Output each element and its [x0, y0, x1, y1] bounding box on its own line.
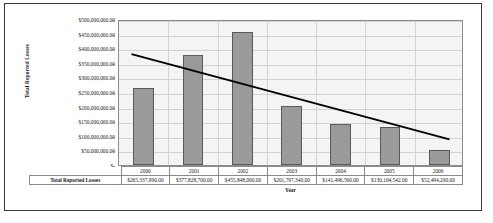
trendline	[119, 21, 462, 166]
table-value-cell: $455,848,000.00	[219, 176, 268, 185]
table-value-cell: $201,797,340.00	[267, 176, 316, 185]
table-header-cell: 2002	[219, 167, 268, 176]
table-value-cell: $52,494,290.00	[414, 176, 463, 185]
chart-frame: Total Reported Losses $500,000,000.00$45…	[4, 3, 482, 211]
data-table: 2000200120022003200420052006 Total Repor…	[29, 166, 463, 185]
table-value-cell: $265,337,990.00	[121, 176, 170, 185]
table-header-cell: 2001	[170, 167, 219, 176]
y-axis-tick	[112, 78, 115, 79]
y-axis-tick-label: $400,000,000.00	[29, 46, 115, 52]
plot-canvas	[118, 20, 463, 166]
y-axis-tick-label: $500,000,000.00	[29, 17, 115, 23]
y-axis-tick	[112, 151, 115, 152]
plot-area	[118, 20, 463, 166]
y-axis-tick	[112, 108, 115, 109]
table-row-years: 2000200120022003200420052006	[30, 167, 463, 176]
y-axis-tick	[112, 49, 115, 50]
y-axis-tick-label: $200,000,000.00	[29, 105, 115, 111]
table-header-cell: 2006	[414, 167, 463, 176]
table-value-cell: $377,828,700.00	[170, 176, 219, 185]
table-header-cell: 2003	[267, 167, 316, 176]
table-row-values: Total Reported Losses $265,337,990.00$37…	[30, 176, 463, 185]
y-axis-tick	[112, 35, 115, 36]
y-axis-tick-label: $350,000,000.00	[29, 61, 115, 67]
table-value-cell: $141,496,560.00	[316, 176, 365, 185]
y-axis-tick-label: $50,000,000.00	[29, 148, 115, 154]
y-axis-tick-label: $100,000,000.00	[29, 134, 115, 140]
table-header-cell: 2004	[316, 167, 365, 176]
table-corner-cell	[30, 167, 122, 176]
table-header-cell: 2000	[121, 167, 170, 176]
y-axis-tick	[112, 122, 115, 123]
table-row-label: Total Reported Losses	[30, 176, 122, 185]
y-axis-tick-label: $150,000,000.00	[29, 119, 115, 125]
table-value-cell: $130,104,542.00	[365, 176, 414, 185]
y-axis-tick-label: $300,000,000.00	[29, 75, 115, 81]
y-axis-tick-label: $250,000,000.00	[29, 90, 115, 96]
y-axis-tick	[112, 137, 115, 138]
y-axis-tick	[112, 20, 115, 21]
x-axis-title: Year	[118, 187, 463, 193]
y-axis-tick	[112, 64, 115, 65]
table-header-cell: 2005	[365, 167, 414, 176]
y-axis-tick	[112, 93, 115, 94]
y-axis-tick-label: $450,000,000.00	[29, 32, 115, 38]
y-axis-tick-labels: $500,000,000.00$450,000,000.00$400,000,0…	[25, 4, 115, 167]
